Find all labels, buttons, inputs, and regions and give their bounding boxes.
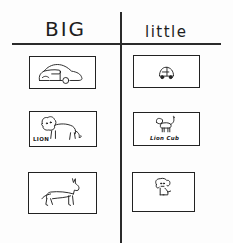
header-divider [12, 43, 221, 45]
caption-lion: LION [33, 136, 49, 142]
dog-icon [29, 173, 96, 213]
car-icon [30, 57, 95, 88]
card-little-lion-cub: Lion Cub [133, 112, 200, 146]
card-big-lion: LION [29, 111, 97, 147]
caption-lion-cub: Lion Cub [150, 135, 179, 141]
worksheet: BIG little [0, 0, 233, 243]
column-header-big: BIG [45, 18, 86, 40]
puppy-icon [133, 173, 194, 211]
column-header-little: little [145, 21, 188, 43]
card-big-dog [28, 172, 97, 214]
card-little-puppy [132, 172, 195, 212]
small-car-icon [134, 56, 199, 87]
column-divider [120, 12, 122, 243]
card-big-car [29, 56, 96, 89]
card-little-car [133, 55, 200, 88]
